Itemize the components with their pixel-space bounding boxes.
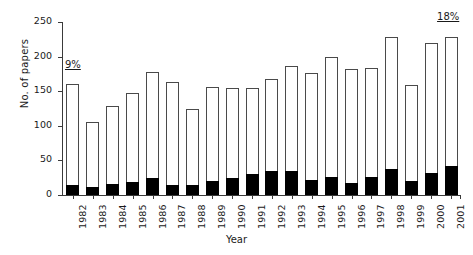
bar-filled-segment-1988 — [186, 185, 199, 195]
bar-filled-segment-1987 — [166, 185, 179, 195]
x-tick-label-1982: 1982 — [77, 204, 88, 229]
x-tick-label-1983: 1983 — [97, 204, 108, 229]
x-tick-label-2000: 2000 — [435, 204, 446, 229]
bar-1985 — [126, 93, 139, 195]
bar-filled-segment-1992 — [265, 171, 278, 195]
plot-area: 050100150200250 — [62, 22, 460, 195]
x-tick-label-1991: 1991 — [256, 204, 267, 229]
bar-1996 — [345, 69, 358, 195]
y-tick-label-100: 100 — [18, 119, 52, 130]
x-tick-label-1994: 1994 — [316, 204, 327, 229]
bar-filled-segment-1993 — [285, 171, 298, 195]
y-tick-0: 0 — [58, 195, 62, 196]
bar-1997 — [365, 68, 378, 195]
y-axis-title: No. of papers — [19, 14, 30, 134]
x-tick-label-1993: 1993 — [296, 204, 307, 229]
bar-1999 — [405, 85, 418, 195]
y-tick-label-200: 200 — [18, 50, 52, 61]
y-tick-label-150: 150 — [18, 84, 52, 95]
bar-1982 — [66, 84, 79, 195]
bar-1998 — [385, 37, 398, 195]
x-tick-end — [460, 195, 461, 199]
x-tick-label-1995: 1995 — [336, 204, 347, 229]
bar-1990 — [226, 88, 239, 195]
bar-filled-segment-1989 — [206, 181, 219, 195]
x-axis-tick-labels: 1982198319841985198619871988198919901991… — [62, 199, 460, 233]
bar-filled-segment-1997 — [365, 177, 378, 195]
chart-figure: No. of papers 050100150200250 1982198319… — [0, 0, 473, 255]
bar-filled-segment-1986 — [146, 178, 159, 195]
bar-1994 — [305, 73, 318, 195]
x-tick-label-1984: 1984 — [117, 204, 128, 229]
bar-filled-segment-1991 — [246, 174, 259, 195]
y-tick-label-50: 50 — [18, 153, 52, 164]
bar-filled-segment-1990 — [226, 178, 239, 195]
bar-filled-segment-1998 — [385, 169, 398, 195]
bar-2000 — [425, 43, 438, 195]
x-tick-label-1987: 1987 — [176, 204, 187, 229]
bar-filled-segment-1983 — [86, 187, 99, 195]
x-tick-label-1986: 1986 — [157, 204, 168, 229]
bar-filled-segment-1982 — [66, 185, 79, 195]
x-tick-label-1997: 1997 — [375, 204, 386, 229]
bar-1984 — [106, 106, 119, 195]
x-tick-label-2001: 2001 — [455, 204, 466, 229]
annotation-9pct: 9% — [65, 59, 81, 70]
y-tick-label-0: 0 — [18, 188, 52, 199]
bar-1995 — [325, 57, 338, 195]
annotation-18pct: 18% — [437, 11, 459, 22]
bar-1983 — [86, 122, 99, 195]
x-tick-label-1992: 1992 — [276, 204, 287, 229]
bar-filled-segment-1995 — [325, 177, 338, 195]
bar-filled-segment-1994 — [305, 180, 318, 195]
bar-filled-segment-1999 — [405, 181, 418, 195]
bar-1991 — [246, 88, 259, 195]
bar-filled-segment-1985 — [126, 182, 139, 195]
x-tick-label-1989: 1989 — [216, 204, 227, 229]
x-tick-label-1996: 1996 — [356, 204, 367, 229]
bar-1989 — [206, 87, 219, 195]
bar-2001 — [445, 37, 458, 195]
bar-filled-segment-2001 — [445, 166, 458, 195]
x-tick-label-1999: 1999 — [415, 204, 426, 229]
x-tick-label-1985: 1985 — [137, 204, 148, 229]
bar-1992 — [265, 79, 278, 195]
bar-1993 — [285, 66, 298, 195]
y-tick-label-250: 250 — [18, 15, 52, 26]
x-axis-line — [62, 195, 460, 196]
x-tick-label-1990: 1990 — [236, 204, 247, 229]
bar-filled-segment-2000 — [425, 173, 438, 195]
x-tick-label-1998: 1998 — [395, 204, 406, 229]
x-axis-title: Year — [0, 234, 473, 245]
bar-filled-segment-1984 — [106, 184, 119, 195]
bar-filled-segment-1996 — [345, 183, 358, 195]
bar-series-group — [62, 22, 460, 195]
x-tick-label-1988: 1988 — [196, 204, 207, 229]
bar-1986 — [146, 72, 159, 195]
bar-1987 — [166, 82, 179, 195]
bar-1988 — [186, 109, 199, 195]
